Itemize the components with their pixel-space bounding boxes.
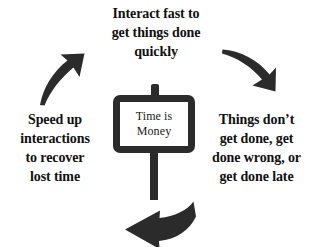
- arrow-bottom-left-icon: [125, 202, 196, 247]
- arrow-top-left-icon: [40, 54, 85, 106]
- sign-post: [150, 150, 158, 200]
- sign-board: Time is Money: [113, 95, 195, 153]
- time-is-money-sign: Time is Money: [113, 84, 195, 204]
- sign-face: Time is Money: [120, 102, 188, 146]
- arrow-top-right-icon: [222, 50, 276, 92]
- sign-text: Time is Money: [136, 109, 173, 139]
- vicious-cycle-diagram: Interact fast to get things done quickly…: [0, 0, 317, 247]
